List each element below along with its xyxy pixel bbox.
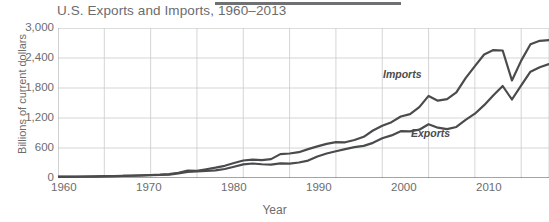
y-tick-1800: 1,800 xyxy=(25,81,54,93)
x-axis-title: Year xyxy=(0,203,549,217)
series-label-imports: Imports xyxy=(383,68,422,80)
chart-figure: U.S. Exports and Imports, 1960–2013 Bill… xyxy=(0,0,549,222)
x-tick-1980: 1980 xyxy=(221,181,247,193)
x-tick-2000: 2000 xyxy=(391,181,417,193)
x-tick-1990: 1990 xyxy=(306,181,332,193)
x-tick-1960: 1960 xyxy=(51,181,77,193)
series-label-exports: Exports xyxy=(411,127,450,139)
plot-area xyxy=(58,28,549,178)
x-tick-1970: 1970 xyxy=(136,181,162,193)
y-axis-tick-labels: 3,000 2,400 1,800 1,200 600 0 xyxy=(0,0,54,222)
y-tick-1200: 1,200 xyxy=(25,111,54,123)
y-tick-2400: 2,400 xyxy=(25,51,54,63)
x-tick-2010: 2010 xyxy=(476,181,502,193)
y-tick-600: 600 xyxy=(35,141,54,153)
plot-background xyxy=(58,28,549,178)
y-tick-3000: 3,000 xyxy=(25,21,54,33)
chart-title: U.S. Exports and Imports, 1960–2013 xyxy=(57,3,286,18)
plot-svg xyxy=(58,28,549,178)
